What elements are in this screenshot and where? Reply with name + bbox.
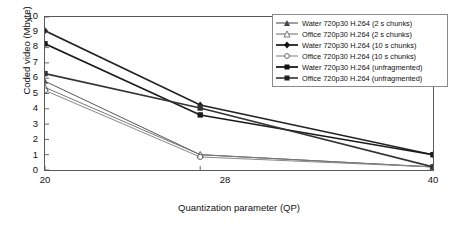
legend-marker-triangle-open-icon <box>275 29 299 39</box>
series-line <box>45 90 433 167</box>
data-point-marker <box>198 154 203 159</box>
data-point-marker <box>430 152 433 157</box>
legend-label: Office 720p30 H.264 (2 s chunks) <box>302 30 412 39</box>
legend-item: Water 720p30 H.264 (10 s chunks) <box>275 40 445 50</box>
data-point-marker <box>198 112 203 117</box>
legend-marker-triangle-filled-icon <box>275 18 299 28</box>
series-line <box>45 87 433 167</box>
data-point-marker <box>45 78 48 84</box>
y-tick-3: 3 <box>14 119 38 129</box>
series-line <box>45 74 433 167</box>
legend-label: Water 720p30 H.264 (10 s chunks) <box>302 41 416 50</box>
series-1 <box>45 84 433 170</box>
series-3 <box>45 88 433 170</box>
x-tick-28: 28 <box>210 175 240 185</box>
data-point-marker <box>45 88 48 93</box>
chart-figure: 10 9 8 7 6 5 4 3 2 1 0 Coded video (Mbyt… <box>0 0 452 225</box>
series-line <box>45 81 433 167</box>
legend-item: Office 720p30 H.264 (unfragmented) <box>275 73 445 83</box>
data-point-marker <box>45 41 48 46</box>
legend-label: Water 720p30 H.264 (unfragmented) <box>302 63 423 72</box>
y-tick-1: 1 <box>14 150 38 160</box>
legend-label: Water 720p30 H.264 (2 s chunks) <box>302 19 412 28</box>
data-point-marker <box>198 105 203 110</box>
legend: Water 720p30 H.264 (2 s chunks) Office 7… <box>272 14 448 87</box>
y-tick-0: 0 <box>14 165 38 175</box>
x-tick-20: 20 <box>30 175 60 185</box>
y-tick-2: 2 <box>14 134 38 144</box>
data-point-marker <box>45 27 48 34</box>
data-point-marker <box>45 71 48 76</box>
legend-marker-square-filled-alt-icon <box>275 73 299 83</box>
series-0 <box>45 78 433 169</box>
legend-label: Office 720p30 H.264 (unfragmented) <box>302 74 422 83</box>
legend-marker-circle-open-icon <box>275 51 299 61</box>
legend-item: Water 720p30 H.264 (2 s chunks) <box>275 18 445 28</box>
legend-item: Water 720p30 H.264 (unfragmented) <box>275 62 445 72</box>
legend-label: Office 720p30 H.264 (10 s chunks) <box>302 52 416 61</box>
x-axis-title: Quantization parameter (QP) <box>44 202 434 213</box>
legend-marker-diamond-filled-icon <box>275 40 299 50</box>
legend-item: Office 720p30 H.264 (10 s chunks) <box>275 51 445 61</box>
x-tick-40: 40 <box>418 175 448 185</box>
legend-item: Office 720p30 H.264 (2 s chunks) <box>275 29 445 39</box>
legend-marker-square-filled-icon <box>275 62 299 72</box>
y-axis-title: Coded video (Mbyte) <box>21 0 32 121</box>
